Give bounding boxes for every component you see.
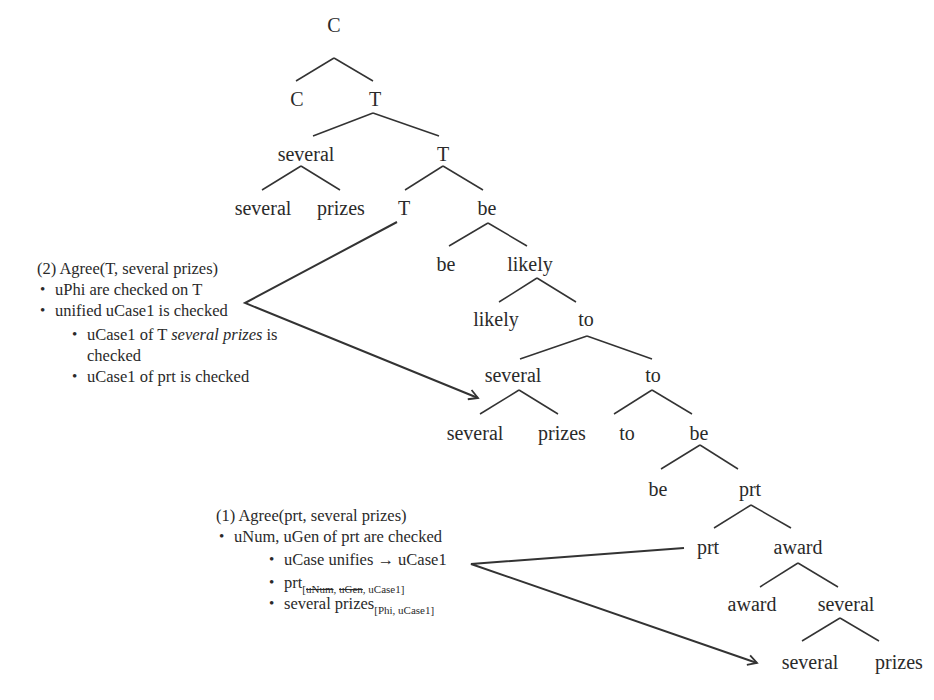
tree-node: C	[290, 89, 303, 109]
tree-node: prizes	[317, 198, 365, 218]
tree-edge	[262, 166, 301, 190]
tree-edge	[480, 390, 519, 414]
tree-node: prt	[697, 537, 719, 557]
tree-node: several	[818, 594, 875, 614]
tree-edge	[760, 563, 798, 587]
annotation-sub-bullet-continuation: checked	[69, 345, 278, 366]
tree-node: several	[447, 423, 504, 443]
annotation-sub-bullet: uCase1 of prt is checked	[69, 366, 278, 387]
annotation-bullet: unified uCase1 is checked	[37, 300, 278, 321]
tree-node: prizes	[538, 423, 586, 443]
tree-edge	[313, 113, 373, 136]
tree-edge	[614, 390, 652, 414]
annotation-bullet: uNum, uGen of prt are checked	[216, 526, 447, 547]
tree-node: be	[437, 254, 456, 274]
annotation-title: (2) Agree(T, several prizes)	[37, 258, 278, 279]
tree-node: T	[437, 144, 449, 164]
annotation-sub-bullet-several-prizes: several prizes[Phi, uCase1]	[266, 593, 447, 614]
agree-2-arrow	[245, 222, 478, 398]
tree-node: several	[235, 198, 292, 218]
annotation-bullet: uPhi are checked on T	[37, 279, 278, 300]
tree-edge	[488, 223, 527, 246]
tree-edge	[301, 166, 340, 190]
tree-edge	[798, 563, 838, 587]
tree-edge	[296, 58, 334, 81]
tree-edge	[802, 618, 840, 641]
tree-edge	[334, 58, 373, 81]
tree-node: several	[782, 652, 839, 672]
tree-edge	[519, 390, 558, 414]
tree-edge	[373, 113, 439, 136]
several-prizes-feature-subscript: [Phi, uCase1]	[374, 604, 434, 616]
tree-edge	[443, 166, 483, 190]
tree-node: likely	[507, 254, 553, 274]
tree-edge	[840, 618, 879, 641]
tree-edge	[587, 336, 652, 359]
tree-edge	[661, 445, 700, 469]
annotation-agree-2: (2) Agree(T, several prizes) uPhi are ch…	[37, 258, 278, 387]
tree-node: C	[327, 15, 340, 35]
tree-edge	[714, 505, 751, 528]
tree-node: T	[369, 89, 381, 109]
tree-edge	[700, 445, 738, 469]
annotation-agree-1: (1) Agree(prt, several prizes) uNum, uGe…	[216, 505, 447, 614]
tree-node: prt	[739, 479, 761, 499]
tree-node: award	[728, 594, 777, 614]
annotation-sub-bullet-unify: uCase unifies → uCase1	[266, 549, 447, 570]
tree-node: be	[690, 423, 709, 443]
tree-node: to	[578, 309, 594, 329]
tree-node: to	[619, 423, 635, 443]
tree-edge	[499, 278, 537, 302]
annotation-title: (1) Agree(prt, several prizes)	[216, 505, 447, 526]
tree-node: be	[478, 198, 497, 218]
tree-node: to	[645, 365, 661, 385]
tree-node: several	[485, 365, 542, 385]
tree-edge	[449, 223, 488, 246]
annotation-sub-bullet: uCase1 of T several prizes is	[69, 324, 278, 345]
tree-node: T	[398, 198, 410, 218]
tree-edge	[652, 390, 692, 414]
tree-node: award	[774, 537, 823, 557]
tree-node: prizes	[875, 652, 923, 672]
tree-node: be	[649, 479, 668, 499]
annotation-sub-bullet-prt: prt[uNum, uGen, uCase1]	[266, 572, 447, 593]
tree-edge	[751, 505, 791, 528]
tree-edge	[405, 166, 443, 190]
tree-node: likely	[473, 309, 519, 329]
tree-node: several	[278, 144, 335, 164]
agree-1-arrow	[471, 548, 757, 663]
tree-edge	[537, 278, 576, 302]
tree-edge	[520, 336, 587, 359]
